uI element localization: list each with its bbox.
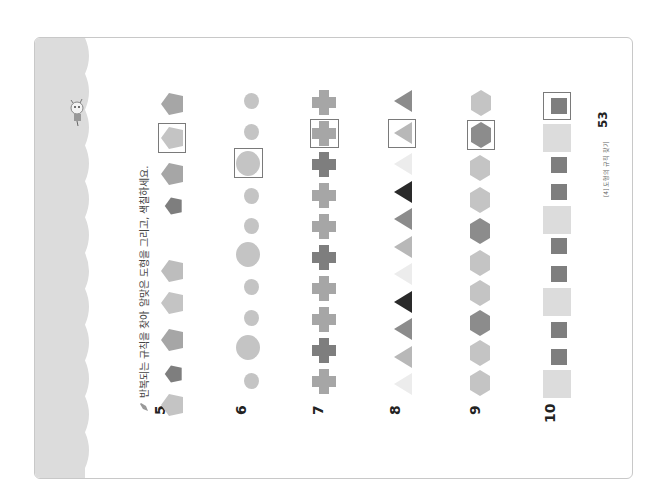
instruction-text: 반복되는 규칙을 찾아 알맞은 도형을 그리고, 색칠하세요. — [136, 166, 151, 412]
pentagon-mid-icon — [160, 161, 186, 187]
problem-number-8: 8 — [387, 405, 403, 415]
hexagon-light-icon — [470, 187, 490, 213]
pentagon-mid-icon — [160, 91, 186, 117]
square-dark-small-icon — [551, 238, 567, 254]
cross-dark-icon — [312, 338, 336, 363]
triangle-black-icon — [394, 181, 412, 203]
hexagon-light-icon — [470, 370, 490, 396]
mascot-character-icon — [65, 94, 89, 128]
hexagon-dark-icon — [470, 310, 490, 336]
circle-small-icon — [244, 279, 259, 295]
triangle-mid-icon — [394, 318, 412, 340]
cross-dark-icon — [312, 245, 336, 270]
pentagon-light-icon — [160, 258, 186, 284]
square-dark-small-icon — [551, 266, 567, 282]
hexagon-light-icon — [470, 250, 490, 276]
triangle-light-icon — [394, 346, 412, 368]
page-number: 53 — [596, 111, 610, 128]
pentagon-dark-small-icon — [164, 364, 184, 384]
circle-large-icon — [236, 335, 260, 360]
pencil-icon — [139, 402, 149, 412]
cross-mid-icon — [312, 90, 336, 115]
triangle-answer-light-icon — [394, 122, 412, 144]
square-answer-dark-small-icon — [551, 98, 567, 114]
triangle-mid-icon — [394, 90, 412, 112]
cross-dark-icon — [312, 152, 336, 177]
triangle-pale-icon — [394, 263, 412, 285]
circle-small-icon — [244, 373, 259, 389]
hexagon-dark-icon — [470, 218, 490, 244]
pentagon-light-icon — [160, 290, 186, 316]
problem-number-10: 10 — [542, 404, 558, 423]
square-dark-small-icon — [551, 349, 567, 365]
pentagon-answer-light-icon — [160, 125, 186, 151]
cross-mid-icon — [312, 214, 336, 239]
square-dark-small-icon — [551, 184, 567, 200]
footer-section-title: [4] 도형의 규칙 찾기 — [601, 141, 610, 197]
triangle-pale-icon — [394, 153, 412, 175]
triangle-light-icon — [394, 236, 412, 258]
square-pale-large-icon — [543, 370, 571, 398]
triangle-black-icon — [394, 291, 412, 313]
circle-small-icon — [244, 218, 259, 234]
triangle-mid-icon — [394, 208, 412, 230]
square-pale-large-icon — [543, 288, 571, 316]
problem-number-6: 6 — [233, 405, 249, 415]
cross-mid-icon — [312, 276, 336, 301]
circle-small-icon — [244, 310, 259, 326]
square-dark-small-icon — [551, 157, 567, 173]
circle-small-icon — [244, 188, 259, 204]
pentagon-dark-small-icon — [164, 196, 184, 216]
hexagon-answer-dark-icon — [471, 122, 491, 148]
square-pale-large-icon — [543, 124, 571, 152]
pentagon-mid-icon — [160, 327, 186, 353]
hexagon-light-icon — [470, 340, 490, 366]
circle-answer-large-icon — [236, 151, 260, 176]
hexagon-light-icon — [470, 155, 490, 181]
circle-large-icon — [236, 242, 260, 267]
hexagon-light-icon — [471, 90, 491, 116]
cross-mid-icon — [312, 183, 336, 208]
pentagon-light-icon — [160, 392, 186, 418]
problem-number-7: 7 — [310, 405, 326, 415]
triangle-pale-icon — [394, 373, 412, 395]
cross-answer-mid-icon — [312, 121, 336, 146]
square-pale-large-icon — [543, 206, 571, 234]
problem-number-9: 9 — [467, 405, 483, 415]
circle-small-icon — [244, 124, 259, 140]
cross-mid-icon — [312, 369, 336, 394]
circle-small-icon — [244, 93, 259, 109]
square-dark-small-icon — [551, 322, 567, 338]
cross-mid-icon — [312, 307, 336, 332]
hexagon-light-icon — [470, 280, 490, 306]
